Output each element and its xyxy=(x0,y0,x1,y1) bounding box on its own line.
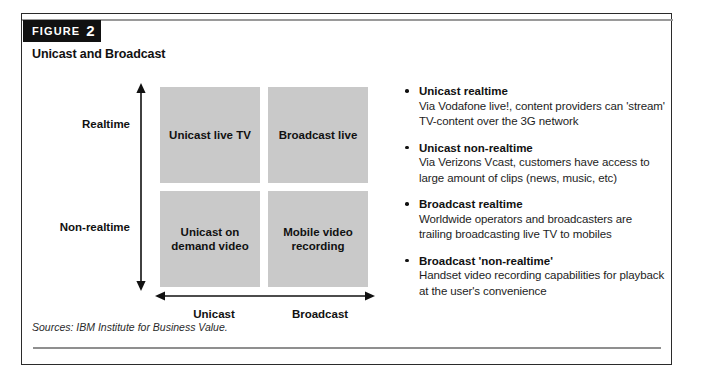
matrix-grid: Unicast live TV Broadcast live Unicast o… xyxy=(160,87,368,287)
list-item-title: Broadcast 'non-realtime' xyxy=(419,254,665,269)
axis-label-realtime: Realtime xyxy=(46,118,130,130)
sources-note: Sources: IBM Institute for Business Valu… xyxy=(32,321,228,333)
bullet-dot-icon xyxy=(405,146,409,150)
y-axis-arrow-icon xyxy=(134,82,148,292)
axis-label-unicast: Unicast xyxy=(162,308,266,320)
matrix-cell-broadcast-live: Broadcast live xyxy=(268,87,368,183)
axis-label-broadcast: Broadcast xyxy=(268,308,372,320)
matrix-cell-unicast-on-demand-video: Unicast on demand video xyxy=(160,191,260,287)
x-axis-arrow-icon xyxy=(154,286,376,306)
bullet-list: Unicast realtime Via Vodafone live!, con… xyxy=(403,84,665,310)
list-item: Unicast non-realtime Via Verizons Vcast,… xyxy=(403,141,665,187)
bullet-dot-icon xyxy=(405,89,409,93)
matrix-cell-unicast-live-tv: Unicast live TV xyxy=(160,87,260,183)
list-item-title: Unicast realtime xyxy=(419,84,665,99)
bullet-dot-icon xyxy=(405,259,409,263)
list-item-body: Via Verizons Vcast, customers have acces… xyxy=(419,155,665,186)
matrix-divider-horizontal xyxy=(160,183,368,191)
matrix-cell-mobile-video-recording: Mobile video recording xyxy=(268,191,368,287)
bullet-dot-icon xyxy=(405,202,409,206)
list-item-body: Worldwide operators and broadcasters are… xyxy=(419,212,665,243)
axis-label-non-realtime: Non-realtime xyxy=(30,221,130,233)
list-item: Unicast realtime Via Vodafone live!, con… xyxy=(403,84,665,130)
list-item-title: Broadcast realtime xyxy=(419,197,665,212)
list-item: Broadcast realtime Worldwide operators a… xyxy=(403,197,665,243)
list-item: Broadcast 'non-realtime' Handset video r… xyxy=(403,254,665,300)
figure-panel: FIGURE 2 Unicast and Broadcast Unicast l… xyxy=(21,13,672,365)
list-item-body: Handset video recording capabilities for… xyxy=(419,268,665,299)
list-item-title: Unicast non-realtime xyxy=(419,141,665,156)
list-item-body: Via Vodafone live!, content providers ca… xyxy=(419,99,665,130)
footer-rule xyxy=(33,347,661,349)
